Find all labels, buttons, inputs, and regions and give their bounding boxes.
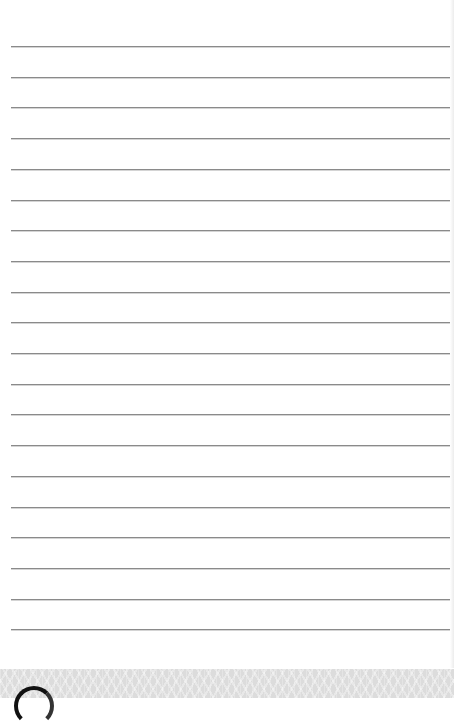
ruled-line xyxy=(11,322,450,323)
ruled-line xyxy=(11,414,450,415)
ruled-line xyxy=(11,107,450,108)
ruled-line xyxy=(11,537,450,538)
ruled-line xyxy=(11,138,450,139)
ruled-line xyxy=(11,169,450,170)
ruled-line xyxy=(11,629,450,630)
ruled-line xyxy=(11,599,450,600)
page-edge-shadow xyxy=(450,0,454,668)
ruled-line xyxy=(11,46,450,47)
ruled-line xyxy=(11,200,450,201)
ruled-line xyxy=(11,476,450,477)
ruled-line xyxy=(11,507,450,508)
ruled-line xyxy=(11,353,450,354)
ruled-line xyxy=(11,384,450,385)
ruled-line xyxy=(11,445,450,446)
ruled-line xyxy=(11,261,450,262)
ruled-line xyxy=(11,292,450,293)
circle-logo-icon xyxy=(14,686,54,725)
lined-page xyxy=(0,0,454,668)
footer-pattern-band xyxy=(0,669,454,698)
ruled-line xyxy=(11,230,450,231)
ruled-line xyxy=(11,568,450,569)
ruled-line xyxy=(11,77,450,78)
